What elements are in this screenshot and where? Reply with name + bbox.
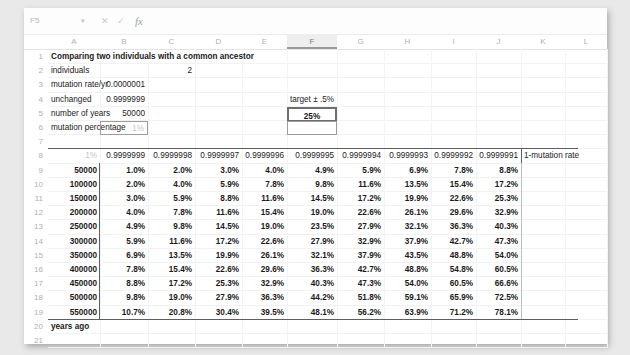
matrix-cell[interactable]: 27.9% <box>337 220 384 234</box>
matrix-cell[interactable]: 51.8% <box>337 291 384 305</box>
matrix-cell[interactable]: 6.9% <box>384 164 431 178</box>
matrix-cell[interactable]: 5.9% <box>195 178 242 192</box>
matrix-cell[interactable]: 8.8% <box>195 192 242 206</box>
matrix-cell[interactable]: 22.6% <box>337 206 384 220</box>
matrix-cell[interactable]: 43.5% <box>384 249 431 263</box>
matrix-cell[interactable]: 29.6% <box>431 206 476 220</box>
column-header-a[interactable]: A <box>48 34 100 49</box>
row-header-17[interactable]: 17 <box>24 277 46 291</box>
value-individuals[interactable]: 2 <box>148 64 195 78</box>
matrix-cell[interactable]: 13.5% <box>148 249 195 263</box>
matrix-cell[interactable]: 23.5% <box>287 220 337 234</box>
matrix-cell[interactable]: 36.3% <box>287 263 337 277</box>
cancel-icon[interactable]: ✕ <box>98 13 112 29</box>
matrix-cell[interactable]: 32.9% <box>242 277 287 291</box>
row-header-11[interactable]: 11 <box>24 192 46 206</box>
matrix-cell[interactable]: 8.8% <box>100 277 148 291</box>
matrix-cell[interactable]: 42.7% <box>431 235 476 249</box>
matrix-cell[interactable]: 32.9% <box>337 235 384 249</box>
matrix-cell[interactable]: 9.8% <box>148 220 195 234</box>
row-header-10[interactable]: 10 <box>24 178 46 192</box>
matrix-cell[interactable]: 11.6% <box>337 178 384 192</box>
matrix-cell[interactable]: 19.9% <box>195 249 242 263</box>
matrix-cell[interactable]: 27.9% <box>195 291 242 305</box>
matrix-cell[interactable]: 17.2% <box>476 178 521 192</box>
matrix-cell[interactable]: 6.9% <box>100 249 148 263</box>
row-header-14[interactable]: 14 <box>24 235 46 249</box>
matrix-cell[interactable]: 60.5% <box>476 263 521 277</box>
row-header-13[interactable]: 13 <box>24 220 46 234</box>
matrix-cell[interactable]: 17.2% <box>148 277 195 291</box>
row-header-3[interactable]: 3 <box>24 78 46 92</box>
matrix-cell[interactable]: 48.8% <box>384 263 431 277</box>
matrix-cell[interactable]: 32.1% <box>287 249 337 263</box>
matrix-cell[interactable]: 22.6% <box>242 235 287 249</box>
row-header-21[interactable]: 21 <box>24 334 46 348</box>
matrix-cell[interactable]: 19.0% <box>242 220 287 234</box>
matrix-cell[interactable]: 20.8% <box>148 306 195 320</box>
column-header-j[interactable]: J <box>476 34 521 49</box>
matrix-cell[interactable]: 5.9% <box>100 235 148 249</box>
matrix-cell[interactable]: 13.5% <box>384 178 431 192</box>
matrix-cell[interactable]: 10.7% <box>100 306 148 320</box>
name-box[interactable]: F5 <box>28 14 70 28</box>
row-header-15[interactable]: 15 <box>24 249 46 263</box>
matrix-cell[interactable]: 14.5% <box>195 220 242 234</box>
matrix-cell[interactable]: 7.8% <box>242 178 287 192</box>
matrix-cell[interactable]: 29.6% <box>242 263 287 277</box>
row-header-19[interactable]: 19 <box>24 306 46 320</box>
chevron-down-icon[interactable]: ▾ <box>76 13 90 29</box>
matrix-cell[interactable]: 37.9% <box>337 249 384 263</box>
matrix-cell[interactable]: 7.8% <box>100 263 148 277</box>
matrix-cell[interactable]: 26.1% <box>384 206 431 220</box>
value-unchanged[interactable]: 0.9999999 <box>100 93 148 107</box>
formula-input[interactable] <box>150 14 601 28</box>
matrix-cell[interactable]: 11.6% <box>148 235 195 249</box>
column-header-h[interactable]: H <box>384 34 431 49</box>
value-mutation-percentage[interactable]: 1% <box>100 121 148 135</box>
value-mutation-rate[interactable]: 0.0000001 <box>100 78 148 92</box>
matrix-cell[interactable]: 11.6% <box>195 206 242 220</box>
matrix-cell[interactable]: 8.8% <box>476 164 521 178</box>
matrix-cell[interactable]: 5.9% <box>148 192 195 206</box>
matrix-cell[interactable]: 71.2% <box>431 306 476 320</box>
function-icon[interactable]: fx <box>132 13 146 29</box>
value-number-of-years[interactable]: 50000 <box>100 107 148 121</box>
matrix-cell[interactable]: 22.6% <box>431 192 476 206</box>
matrix-cell[interactable]: 4.0% <box>100 206 148 220</box>
matrix-cell[interactable]: 42.7% <box>337 263 384 277</box>
matrix-cell[interactable]: 15.4% <box>148 263 195 277</box>
row-header-6[interactable]: 6 <box>24 121 46 135</box>
matrix-cell[interactable]: 5.9% <box>337 164 384 178</box>
matrix-cell[interactable]: 3.0% <box>100 192 148 206</box>
matrix-cell[interactable]: 15.4% <box>242 206 287 220</box>
row-header-4[interactable]: 4 <box>24 93 46 107</box>
column-header-i[interactable]: I <box>431 34 476 49</box>
matrix-cell[interactable]: 37.9% <box>384 235 431 249</box>
matrix-cell[interactable]: 4.0% <box>148 178 195 192</box>
row-header-7[interactable]: 7 <box>24 135 46 149</box>
matrix-cell[interactable]: 11.6% <box>242 192 287 206</box>
matrix-cell[interactable]: 9.8% <box>100 291 148 305</box>
row-header-20[interactable]: 20 <box>24 320 46 334</box>
matrix-cell[interactable]: 7.8% <box>148 206 195 220</box>
row-header-18[interactable]: 18 <box>24 291 46 305</box>
matrix-cell[interactable]: 17.2% <box>337 192 384 206</box>
matrix-cell[interactable]: 17.2% <box>195 235 242 249</box>
row-header-2[interactable]: 2 <box>24 64 46 78</box>
matrix-cell[interactable]: 2.0% <box>100 178 148 192</box>
matrix-cell[interactable]: 22.6% <box>195 263 242 277</box>
column-header-g[interactable]: G <box>337 34 384 49</box>
matrix-cell[interactable]: 30.4% <box>195 306 242 320</box>
matrix-cell[interactable]: 44.2% <box>287 291 337 305</box>
matrix-cell[interactable]: 15.4% <box>431 178 476 192</box>
matrix-cell[interactable]: 66.6% <box>476 277 521 291</box>
matrix-cell[interactable]: 14.5% <box>287 192 337 206</box>
matrix-cell[interactable]: 2.0% <box>148 164 195 178</box>
matrix-cell[interactable]: 36.3% <box>242 291 287 305</box>
matrix-cell[interactable]: 72.5% <box>476 291 521 305</box>
matrix-cell[interactable]: 19.9% <box>384 192 431 206</box>
target-value-cell[interactable]: 25% <box>287 107 337 122</box>
column-header-b[interactable]: B <box>100 34 148 49</box>
column-header-l[interactable]: L <box>565 34 607 49</box>
